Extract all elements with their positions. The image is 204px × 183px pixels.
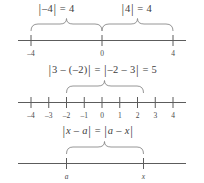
- tick-label: 0: [100, 111, 104, 120]
- brace-left: [31, 19, 102, 32]
- tick-label: 1: [118, 111, 122, 120]
- number-line-svg-3: a x: [0, 122, 204, 183]
- tick-label: –3: [44, 111, 53, 120]
- tick-label: 4: [171, 49, 175, 58]
- tick-label: –2: [62, 111, 71, 120]
- number-line-panel-3: |x – a| = |a – x| a x: [0, 122, 204, 183]
- tick-label: –4: [26, 111, 35, 120]
- number-line-panel-2: |3 – (–2)| = |–2 – 3| = 5 –4 –3 –2 –1 0: [0, 61, 204, 122]
- brace-right: [102, 19, 173, 32]
- tick-label: –4: [26, 49, 35, 58]
- tick-label: –1: [80, 111, 89, 120]
- tick-label: 4: [171, 111, 175, 120]
- brace-distance: [67, 81, 144, 94]
- number-line-svg-2: –4 –3 –2 –1 0 1 2 3 4: [0, 61, 204, 122]
- number-line-panel-1: |–4| = 4 |4| = 4 –4 0 4: [0, 0, 204, 61]
- brace-symmetry: [67, 142, 144, 155]
- tick-label-x: x: [141, 172, 146, 181]
- number-line-svg-1: –4 0 4: [0, 0, 204, 61]
- absolute-value-number-line-figure: |–4| = 4 |4| = 4 –4 0 4: [0, 0, 204, 183]
- tick-label: 3: [153, 111, 157, 120]
- tick-label: 2: [136, 111, 140, 120]
- tick-label: 0: [100, 49, 104, 58]
- tick-label-a: a: [65, 172, 69, 181]
